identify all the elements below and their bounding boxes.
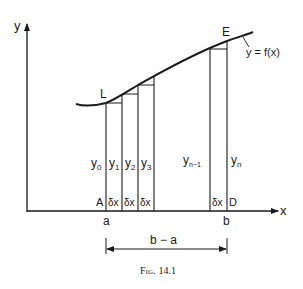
label-yn: yn: [231, 153, 241, 169]
strip-width-labels: A δx δx δx δx D a b: [96, 196, 237, 228]
point-b-label: b: [223, 214, 230, 228]
y-axis-label: y: [14, 18, 21, 33]
ordinate-labels: y0 y1 y2 y3 yn−1 yn: [91, 153, 241, 172]
label-y3: y3: [141, 156, 152, 172]
label-y1: y1: [109, 156, 120, 172]
curve-label: y = f(x): [246, 46, 280, 58]
point-a-label: a: [103, 214, 110, 228]
label-yn-1: yn−1: [183, 153, 201, 168]
delta-x-2: δx: [124, 197, 135, 208]
interval-label: b − a: [150, 233, 177, 247]
x-axis-label: x: [280, 203, 287, 218]
figure-caption: Fig.14.1: [140, 265, 176, 276]
label-y0: y0: [91, 156, 102, 172]
strip-tops: [106, 49, 227, 103]
delta-x-n: δx: [212, 197, 223, 208]
delta-x-1: δx: [108, 197, 119, 208]
point-D-label: D: [229, 196, 237, 208]
delta-x-3: δx: [140, 197, 151, 208]
point-A-label: A: [96, 196, 104, 208]
ordinate-lines: [106, 41, 227, 211]
integration-strip-diagram: y x y = f(x) L E y0 y1 y2: [0, 0, 303, 289]
label-y2: y2: [125, 156, 136, 172]
point-L-label: L: [100, 87, 107, 101]
function-curve: y = f(x) L E: [76, 25, 280, 106]
interval-dimension: b − a: [106, 233, 227, 254]
point-E-label: E: [222, 25, 230, 39]
